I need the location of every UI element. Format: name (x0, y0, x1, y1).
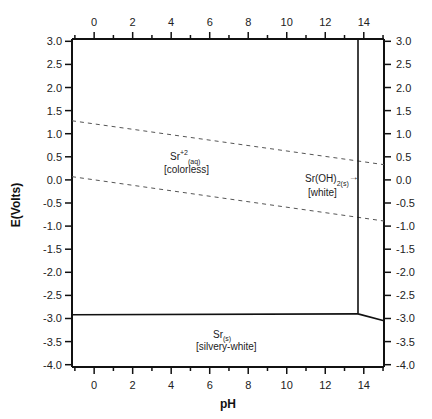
x-tick-label: 10 (281, 379, 293, 391)
y-tick-label: -1.0 (43, 220, 62, 232)
x-tick-label: 2 (130, 16, 136, 28)
y-axis-right: 3.02.52.01.51.00.50.0-0.5-1.0-1.5-2.0-2.… (384, 35, 415, 370)
x-tick-label: 2 (130, 379, 136, 391)
y-tick-label: -1.5 (396, 243, 415, 255)
solid-boundary-line (72, 314, 358, 315)
x-tick-label: 12 (319, 379, 331, 391)
x-tick-label: 6 (207, 16, 213, 28)
y-tick-label: -1.5 (43, 243, 62, 255)
y-tick-label: 1.0 (47, 128, 62, 140)
x-tick-label: 0 (91, 16, 97, 28)
y-tick-label: -4.0 (43, 359, 62, 371)
region-label-sroh2-s: Sr(OH)2(s)→ [white] (305, 171, 359, 198)
x-tick-label: 6 (207, 379, 213, 391)
species-name: Sr(OH) (305, 173, 337, 184)
y-tick-label: -0.5 (43, 197, 62, 209)
x-axis-bottom: 02468101214 (75, 367, 383, 391)
y-tick-label: -0.5 (396, 197, 415, 209)
x-tick-label: 10 (281, 16, 293, 28)
species-color: [white] (308, 187, 337, 198)
y-tick-label: 3.0 (47, 35, 62, 47)
y-tick-label: -3.5 (396, 336, 415, 348)
y-tick-label: 0.5 (396, 151, 411, 163)
species-color: [silvery-white] (196, 341, 257, 352)
x-tick-label: 14 (358, 16, 370, 28)
x-tick-label: 14 (358, 379, 370, 391)
y-tick-label: 0.5 (47, 151, 62, 163)
x-tick-label: 4 (168, 379, 174, 391)
y-tick-label: 1.5 (47, 105, 62, 117)
y-tick-label: 2.5 (47, 58, 62, 70)
y-tick-label: -2.0 (43, 266, 62, 278)
y-tick-label: 1.0 (396, 128, 411, 140)
y-tick-label: 1.5 (396, 105, 411, 117)
y-tick-label: -2.0 (396, 266, 415, 278)
x-tick-label: 12 (319, 16, 331, 28)
solid-boundary-line (358, 314, 384, 321)
y-tick-label: -3.0 (396, 312, 415, 324)
x-axis-top: 02468101214 (75, 16, 383, 39)
x-axis-title: pH (220, 397, 236, 411)
y-tick-label: -4.0 (396, 359, 415, 371)
y-tick-label: -3.0 (43, 312, 62, 324)
pourbaix-diagram: 02468101214 02468101214 3.02.52.01.51.00… (0, 0, 432, 419)
region-label-sr-s: Sr(s) [silvery-white] (196, 329, 257, 352)
x-tick-label: 0 (91, 379, 97, 391)
y-tick-label: 2.0 (47, 82, 62, 94)
y-axis-left: 3.02.52.01.51.00.50.0-0.5-1.0-1.5-2.0-2.… (43, 35, 72, 370)
species-state: 2(s) (337, 180, 349, 188)
y-tick-label: -3.5 (43, 336, 62, 348)
y-tick-label: -2.5 (396, 289, 415, 301)
y-tick-label: 2.5 (396, 58, 411, 70)
species-charge: +2 (180, 149, 188, 156)
y-axis-title: E(Volts) (9, 183, 23, 227)
y-tick-label: 0.0 (396, 174, 411, 186)
x-tick-label: 8 (245, 379, 251, 391)
svg-text:Sr(OH)2(s)→: Sr(OH)2(s)→ (305, 171, 359, 188)
arrow-icon: → (349, 171, 359, 182)
region-label-sr2-aq: Sr+2(aq) [colorless] (164, 149, 209, 175)
x-tick-label: 4 (168, 16, 174, 28)
y-tick-label: 2.0 (396, 82, 411, 94)
species-color: [colorless] (164, 164, 209, 175)
y-tick-label: 0.0 (47, 174, 62, 186)
y-tick-label: -2.5 (43, 289, 62, 301)
y-tick-label: 3.0 (396, 35, 411, 47)
plot-frame (72, 39, 384, 367)
x-tick-label: 8 (245, 16, 251, 28)
y-tick-label: -1.0 (396, 220, 415, 232)
dashed-boundary-line (72, 121, 384, 165)
